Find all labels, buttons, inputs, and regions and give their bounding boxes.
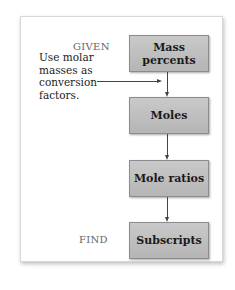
arrow-line-2 <box>167 134 168 156</box>
conversion-note: Use molar masses as conversion factors. <box>39 51 109 101</box>
arrow-line-1 <box>167 72 168 93</box>
step-mass-percents: Mass percents <box>129 35 209 72</box>
step-label: Mole ratios <box>134 172 204 185</box>
step-mole-ratios: Mole ratios <box>129 160 209 197</box>
step-label: Moles <box>151 109 188 122</box>
diagram-card: GIVEN Use molar masses as conversion fac… <box>20 16 223 262</box>
step-label: Mass percents <box>130 41 208 67</box>
find-label: FIND <box>79 234 108 245</box>
step-moles: Moles <box>129 97 209 134</box>
note-arrow-line <box>97 81 157 82</box>
arrow-line-3 <box>167 197 168 218</box>
step-label: Subscripts <box>136 234 201 247</box>
step-subscripts: Subscripts <box>129 222 209 259</box>
note-arrowhead-icon <box>157 79 162 83</box>
